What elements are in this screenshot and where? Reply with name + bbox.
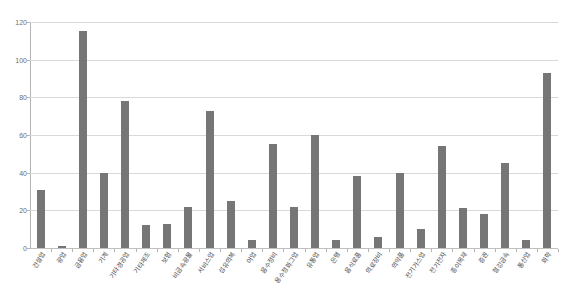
bar-slot — [136, 22, 157, 248]
bar[interactable] — [269, 144, 277, 248]
x-axis-category-label: 전기전자 — [428, 251, 448, 275]
x-axis-category-label: 증권 — [477, 251, 490, 265]
y-axis-tick-label: 80 — [1, 94, 27, 101]
y-axis-tick-label: 0 — [1, 245, 27, 252]
bar-slot — [241, 22, 262, 248]
plot-area — [30, 22, 558, 248]
bar-slot — [537, 22, 558, 248]
bar-slot — [114, 22, 135, 248]
x-axis-label-slot: 금융업 — [72, 249, 93, 292]
bar[interactable] — [396, 173, 404, 248]
y-axis-tick-label: 20 — [1, 207, 27, 214]
y-axis-tick-mark — [27, 248, 30, 249]
x-axis-category-label: 광업 — [55, 251, 68, 265]
bar[interactable] — [163, 224, 171, 248]
x-axis-category-label: 음식료품 — [344, 251, 364, 275]
bar-slot — [157, 22, 178, 248]
x-axis-category-label: 은행 — [329, 251, 342, 265]
bar-slot — [474, 22, 495, 248]
bar-slot — [51, 22, 72, 248]
bar[interactable] — [37, 190, 45, 248]
x-axis-category-label: 건설업 — [30, 251, 47, 270]
x-axis-category-label: 통신업 — [516, 251, 533, 270]
bar[interactable] — [248, 240, 256, 248]
x-axis-tick-mark — [558, 249, 559, 252]
x-axis-label-slot: 건설업 — [30, 249, 51, 292]
bar-slot — [93, 22, 114, 248]
bar-slot — [368, 22, 389, 248]
x-axis-category-label: 섬유의복 — [217, 251, 237, 275]
bar-slot — [283, 22, 304, 248]
bar-slot — [305, 22, 326, 248]
x-axis-label-slot: 철강금속 — [495, 249, 516, 292]
bar[interactable] — [480, 214, 488, 248]
bar-chart: 020406080100120 건설업광업금융업기계기타경공업기타제조보험비금속… — [0, 0, 568, 292]
bar[interactable] — [459, 208, 467, 248]
x-axis-category-label: 보험 — [160, 251, 173, 265]
bar-slot — [220, 22, 241, 248]
bar[interactable] — [206, 111, 214, 248]
y-axis-tick-mark — [27, 97, 30, 98]
bar-slot — [72, 22, 93, 248]
bar-slot — [410, 22, 431, 248]
bar-slot — [178, 22, 199, 248]
y-axis-tick-labels: 020406080100120 — [0, 22, 27, 248]
x-axis-label-slot: 종이목재 — [452, 249, 473, 292]
bar-slot — [452, 22, 473, 248]
y-axis-tick-mark — [27, 22, 30, 23]
x-axis-label-slot: 섬유의복 — [220, 249, 241, 292]
x-axis-category-label: 의약품 — [389, 251, 406, 270]
x-axis-label-slot: 광업 — [51, 249, 72, 292]
x-axis-category-label: 금융업 — [72, 251, 89, 270]
x-axis-category-label: 어업 — [245, 251, 258, 265]
bar[interactable] — [522, 240, 530, 248]
bar[interactable] — [142, 225, 150, 248]
bar-slot — [495, 22, 516, 248]
bar-slot — [30, 22, 51, 248]
bar[interactable] — [290, 207, 298, 248]
x-axis-label-slot: 용수정화그업 — [283, 249, 304, 292]
bar[interactable] — [311, 135, 319, 248]
y-axis-tick-mark — [27, 210, 30, 211]
bar-slot — [431, 22, 452, 248]
bar[interactable] — [374, 237, 382, 248]
bar[interactable] — [79, 31, 87, 248]
x-axis-label-slot: 화학 — [537, 249, 558, 292]
bar[interactable] — [353, 176, 361, 248]
bar-slot — [262, 22, 283, 248]
x-axis-label-slot: 의료장비 — [368, 249, 389, 292]
bar[interactable] — [100, 173, 108, 248]
bar[interactable] — [58, 246, 66, 248]
x-axis-category-label: 화학 — [541, 251, 554, 265]
x-axis-label-slot: 유통업 — [305, 249, 326, 292]
x-axis-category-label: 철강금속 — [491, 251, 511, 275]
x-axis-category-label: 서비스업 — [196, 251, 216, 275]
y-axis-tick-label: 60 — [1, 132, 27, 139]
y-axis-tick-mark — [27, 135, 30, 136]
bar[interactable] — [438, 146, 446, 248]
x-axis-label-slot: 통신업 — [516, 249, 537, 292]
bar[interactable] — [184, 207, 192, 248]
bar-slot — [516, 22, 537, 248]
y-axis-tick-mark — [27, 60, 30, 61]
y-axis-tick-label: 40 — [1, 169, 27, 176]
x-axis-category-label: 의료장비 — [365, 251, 385, 275]
x-axis-category-label: 기계 — [97, 251, 110, 265]
x-axis-category-label: 종이목재 — [449, 251, 469, 275]
bar-slot — [199, 22, 220, 248]
bar[interactable] — [227, 201, 235, 248]
y-axis-tick-mark — [27, 173, 30, 174]
bar[interactable] — [501, 163, 509, 248]
y-axis-tick-label: 120 — [1, 19, 27, 26]
bar[interactable] — [543, 73, 551, 248]
bar[interactable] — [121, 101, 129, 248]
bar[interactable] — [417, 229, 425, 248]
y-axis-tick-label: 100 — [1, 56, 27, 63]
x-axis-category-label: 유통업 — [305, 251, 322, 270]
bar-slot — [347, 22, 368, 248]
bar-slot — [389, 22, 410, 248]
x-axis-category-label: 기타제조 — [132, 251, 152, 275]
x-axis-category-label: 음수정비 — [259, 251, 279, 275]
bar[interactable] — [332, 240, 340, 248]
x-axis-label-slot: 기타제조 — [136, 249, 157, 292]
